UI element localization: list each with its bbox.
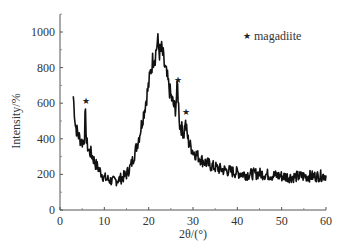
legend: ★ magadiite [243, 29, 301, 43]
xrd-trace [73, 34, 326, 186]
y-axis-title: Intensity/% [9, 93, 23, 148]
legend-star-icon: ★ [243, 31, 251, 41]
y-tick-label: 1000 [31, 25, 55, 39]
peak-annotations: ★★★ [82, 75, 190, 117]
x-axis: 0102030405060 [57, 207, 332, 228]
x-tick-label: 50 [276, 214, 288, 228]
x-tick-label: 0 [57, 214, 63, 228]
x-tick-label: 10 [98, 214, 110, 228]
x-axis-title: 2θ/(°) [179, 227, 207, 241]
star-marker-icon: ★ [182, 107, 190, 117]
y-tick-label: 0 [49, 203, 55, 217]
y-tick-label: 400 [37, 132, 55, 146]
x-tick-label: 20 [143, 214, 155, 228]
y-tick-label: 800 [37, 61, 55, 75]
star-marker-icon: ★ [82, 96, 90, 106]
xrd-chart: 02004006008001000 0102030405060 ★★★ Inte… [0, 0, 344, 249]
x-tick-label: 60 [320, 214, 332, 228]
x-tick-label: 30 [187, 214, 199, 228]
star-marker-icon: ★ [174, 75, 182, 85]
y-tick-label: 200 [37, 167, 55, 181]
x-tick-label: 40 [231, 214, 243, 228]
y-tick-label: 600 [37, 96, 55, 110]
y-axis: 02004006008001000 [31, 14, 63, 217]
legend-label: magadiite [254, 29, 301, 43]
